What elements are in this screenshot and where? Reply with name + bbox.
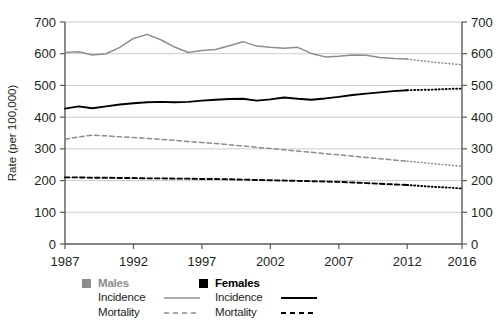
svg-text:600: 600 <box>34 46 56 61</box>
svg-text:600: 600 <box>471 46 493 61</box>
svg-text:700: 700 <box>34 15 56 30</box>
legend-head-males: Males <box>82 276 202 290</box>
axis-ticks <box>60 22 467 249</box>
svg-text:1997: 1997 <box>187 254 216 269</box>
svg-text:2002: 2002 <box>256 254 285 269</box>
legend-item-females-mortality: Mortality <box>215 305 319 320</box>
legend-label-males-mortality: Mortality <box>98 306 162 319</box>
legend-line-sample-solid-grey <box>162 293 202 303</box>
legend-item-males-mortality: Mortality <box>98 305 202 320</box>
svg-text:400: 400 <box>471 110 493 125</box>
svg-text:200: 200 <box>34 173 56 188</box>
svg-text:300: 300 <box>471 141 493 156</box>
svg-text:500: 500 <box>34 78 56 93</box>
axis-lines <box>65 22 462 244</box>
svg-text:1987: 1987 <box>51 254 80 269</box>
svg-text:700: 700 <box>471 15 493 30</box>
svg-text:200: 200 <box>471 173 493 188</box>
svg-text:500: 500 <box>471 78 493 93</box>
gridlines <box>65 22 462 212</box>
svg-text:300: 300 <box>34 141 56 156</box>
legend-line-sample-dashed-grey <box>162 308 202 318</box>
legend-title-males: Males <box>98 277 129 289</box>
legend-line-sample-dashed-black <box>279 308 319 318</box>
svg-text:1992: 1992 <box>119 254 148 269</box>
legend-group-females: Females Incidence Mortality <box>199 276 319 320</box>
data-series <box>65 34 462 188</box>
svg-text:0: 0 <box>471 237 478 252</box>
svg-text:2007: 2007 <box>324 254 353 269</box>
legend-swatch-icon-males <box>82 279 91 288</box>
legend-label-females-mortality: Mortality <box>215 306 279 319</box>
chart-legend: Males Incidence Mortality Females <box>0 276 500 326</box>
legend-swatch-icon-females <box>199 279 208 288</box>
chart-figure: 7007006006005005004004003003002002001001… <box>0 0 500 336</box>
svg-text:100: 100 <box>471 205 493 220</box>
svg-text:2012: 2012 <box>393 254 422 269</box>
svg-text:100: 100 <box>34 205 56 220</box>
legend-group-males: Males Incidence Mortality <box>82 276 202 320</box>
legend-item-females-incidence: Incidence <box>215 290 319 305</box>
svg-text:2016: 2016 <box>448 254 477 269</box>
y-axis-title: Rate (per 100,000) <box>6 85 18 182</box>
legend-label-males-incidence: Incidence <box>98 291 162 304</box>
legend-title-females: Females <box>215 277 260 289</box>
axis-tick-labels: 7007006006005005004004003003002002001001… <box>34 15 492 270</box>
svg-text:0: 0 <box>49 237 56 252</box>
legend-line-sample-solid-black <box>279 293 319 303</box>
legend-item-males-incidence: Incidence <box>98 290 202 305</box>
svg-text:400: 400 <box>34 110 56 125</box>
legend-head-females: Females <box>199 276 319 290</box>
legend-label-females-incidence: Incidence <box>215 291 279 304</box>
